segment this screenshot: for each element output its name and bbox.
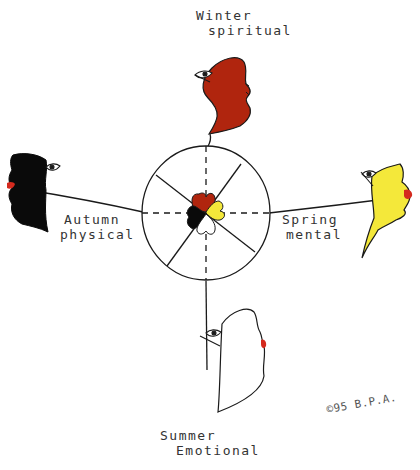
label-autumn-aspect: physical bbox=[60, 227, 135, 242]
label-winter-aspect: spiritual bbox=[208, 23, 292, 38]
autumn-face bbox=[7, 154, 60, 232]
label-summer-season: Summer bbox=[160, 428, 260, 443]
label-summer-aspect: Emotional bbox=[176, 443, 260, 458]
summer-face bbox=[200, 309, 266, 412]
spring-face bbox=[361, 164, 412, 258]
label-winter-spiritual: Winter spiritual bbox=[196, 8, 292, 38]
eye-icon bbox=[46, 164, 60, 170]
label-winter-season: Winter bbox=[196, 8, 292, 23]
label-spring-season: Spring bbox=[282, 212, 342, 227]
label-summer-emotional: Summer Emotional bbox=[160, 428, 260, 458]
label-spring-mental: Spring mental bbox=[282, 212, 342, 242]
label-spring-aspect: mental bbox=[286, 227, 342, 242]
eye-icon bbox=[200, 330, 221, 346]
label-autumn-physical: Autumn physical bbox=[64, 212, 135, 242]
label-autumn-season: Autumn bbox=[64, 212, 135, 227]
winter-face bbox=[195, 58, 250, 134]
line-to-summer bbox=[206, 281, 207, 370]
